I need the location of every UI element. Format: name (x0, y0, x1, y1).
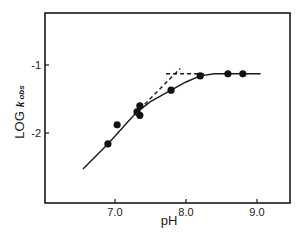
y-axis-ticks: -1-2 (31, 59, 49, 139)
y-axis-label-k: k (15, 101, 26, 107)
y-axis-label-sub: obs (17, 85, 26, 100)
x-tick-label: 7.0 (107, 206, 122, 218)
data-point (104, 140, 111, 147)
x-axis-label: pH (161, 213, 178, 228)
x-tick-label: 8.0 (178, 206, 193, 218)
data-point (167, 87, 174, 94)
data-point (197, 72, 204, 79)
plot-frame (45, 13, 290, 203)
data-point (114, 121, 121, 128)
data-point (136, 102, 143, 109)
svg-text:LOGkobs: LOGkobs (12, 85, 27, 139)
y-tick-label: -1 (31, 59, 41, 71)
y-tick-label: -2 (31, 127, 41, 139)
x-tick-label: 9.0 (249, 206, 264, 218)
data-point (239, 70, 246, 77)
data-points (104, 70, 246, 147)
log-kobs-vs-ph-chart: 7.08.09.0 -1-2 pH LOGkobs (0, 0, 306, 240)
data-point (224, 70, 231, 77)
plot-lines (83, 68, 261, 169)
y-axis-label: LOGkobs (12, 85, 27, 139)
data-point (136, 112, 143, 119)
x-axis-ticks: 7.08.09.0 (107, 199, 264, 218)
y-axis-label-main: LOG (12, 111, 27, 138)
